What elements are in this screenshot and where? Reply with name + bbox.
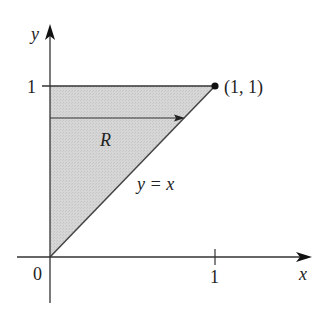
x-tick-label-1: 1	[210, 267, 219, 287]
point-1-1	[211, 82, 218, 89]
x-axis-label: x	[298, 264, 307, 284]
y-axis-label: y	[29, 24, 39, 44]
origin-label: 0	[33, 264, 42, 284]
point-label: (1, 1)	[224, 77, 263, 98]
y-tick-label-1: 1	[27, 77, 36, 97]
curve-label: y = x	[135, 174, 174, 194]
x-axis	[17, 252, 312, 262]
region-label: R	[99, 130, 111, 150]
region-diagram: y 1 R (1, 1) y = x 0 1 x	[0, 0, 336, 317]
